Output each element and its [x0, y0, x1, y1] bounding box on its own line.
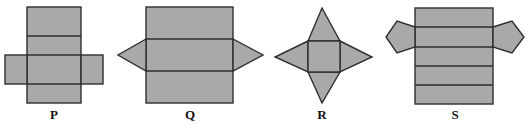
net-label-r: R: [317, 107, 327, 122]
net-label-q: Q: [185, 107, 195, 122]
net-label-s: S: [451, 107, 458, 122]
net-p: P: [5, 7, 103, 122]
net-q: Q: [118, 7, 263, 122]
net-s: S: [386, 8, 524, 122]
net-label-p: P: [50, 107, 58, 122]
nets-diagram: P Q R S: [0, 0, 530, 124]
net-r: R: [275, 8, 372, 122]
